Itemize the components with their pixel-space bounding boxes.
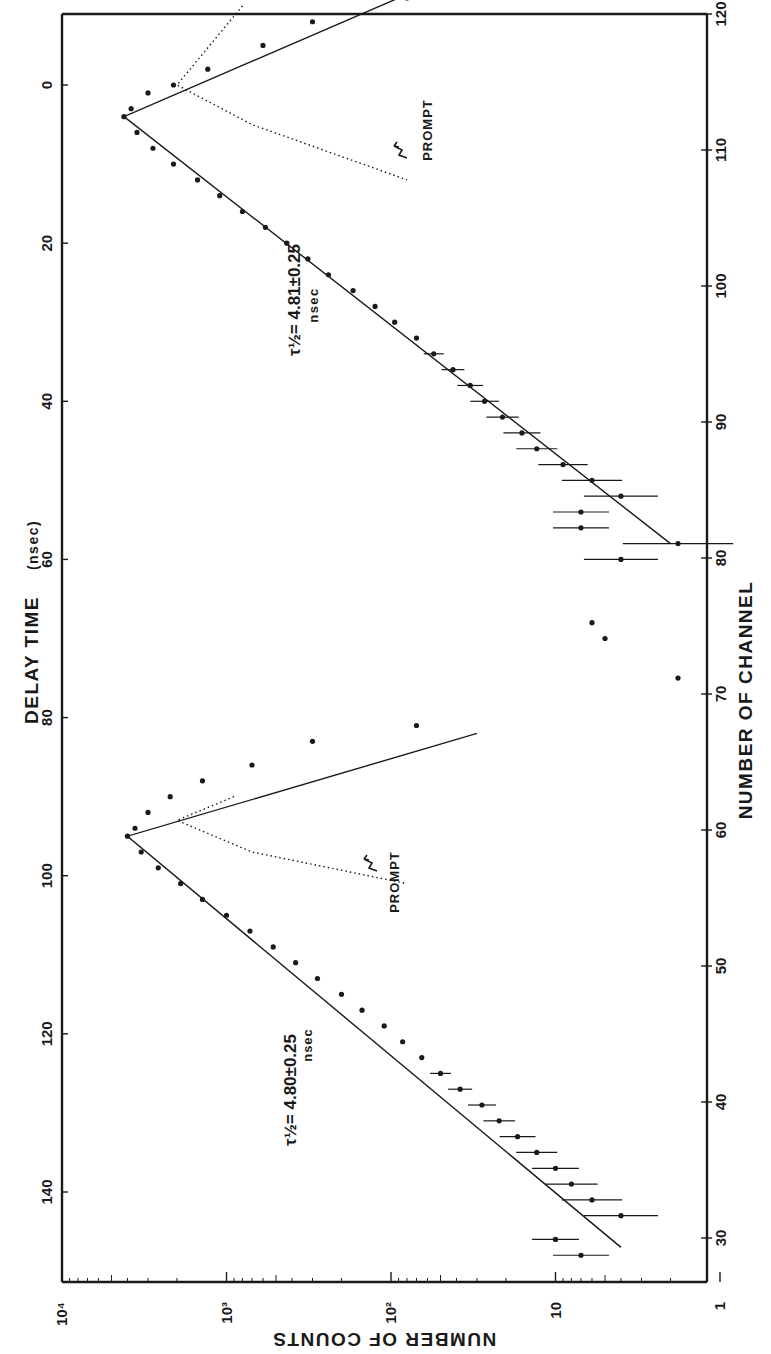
plot-frame [62,14,707,1282]
channel-tick-label: 50 [712,958,729,975]
counts-axis-ticks: 10⁴10³10²101 [53,1272,728,1326]
delay-tick-label: 20 [38,235,55,252]
channel-tick-label: 70 [712,686,729,703]
channel-tick-label: 80 [712,550,729,567]
prompt-curve [177,797,407,884]
count-tick-label: 10⁴ [53,1302,70,1326]
data-point [326,272,331,277]
data-point [145,90,150,95]
data-point [497,1118,502,1123]
data-point [519,430,524,435]
data-point [293,960,298,965]
data-point [414,723,419,728]
data-point [310,19,315,24]
data-point [578,509,583,514]
channel-tick-label: 40 [712,1094,729,1111]
data-point [305,256,310,261]
data-point [392,320,397,325]
data-point [139,849,144,854]
data-point [500,415,505,420]
data-point [479,1102,484,1107]
fit-line [127,733,621,1247]
data-point [315,976,320,981]
data-point [450,367,455,372]
data-point [569,1181,574,1186]
delay-axis-unit: (nsec) [25,520,41,570]
data-point [589,478,594,483]
data-point [247,928,252,933]
data-point [675,675,680,680]
data-point [534,446,539,451]
data-point [134,130,139,135]
channel-tick-label: 110 [712,138,729,162]
delay-axis-title: DELAY TIME [21,596,42,724]
channel-tick-label: 30 [712,1230,729,1247]
data-point [553,1237,558,1242]
data-point [271,944,276,949]
data-point [121,114,126,119]
data-point [224,913,229,918]
data-point [400,1039,405,1044]
channel-axis-ticks: 12011010090807060504030 [701,1,729,1246]
delay-tick-label: 0 [38,81,55,89]
delay-tick-label: 40 [38,393,55,410]
delay-tick-label: 140 [38,1179,55,1204]
data-point [205,67,210,72]
data-point [382,1023,387,1028]
data-point [618,557,623,562]
prompt-curve [177,6,407,180]
data-point [419,1055,424,1060]
fit-line [124,0,671,544]
data-point [404,0,409,1]
data-point [195,177,200,182]
data-point [168,794,173,799]
data-point [171,161,176,166]
prompt-label-1: PROMPT [420,99,435,161]
delay-tick-label: 120 [38,1021,55,1046]
data-point [578,1253,583,1258]
data-point [217,193,222,198]
half-life-unit-1: nsec [306,287,321,323]
data-point [156,865,161,870]
data-point [553,1166,558,1171]
channel-tick-label: 120 [712,1,729,26]
lifetime-decay-chart: 020406080100120140 120110100908070605040… [0,0,771,1354]
data-point [458,1087,463,1092]
data-point [431,351,436,356]
data-point [482,399,487,404]
channel-tick-label: 90 [712,414,729,431]
data-point [675,541,680,546]
data-point [578,525,583,530]
data-point [438,1071,443,1076]
data-point [515,1134,520,1139]
half-life-label-1: τ½= 4.81±0.25 [285,244,304,356]
data-point [372,304,377,309]
data-point [589,1197,594,1202]
channel-tick-label: 60 [712,822,729,839]
data-point [534,1150,539,1155]
data-point [240,209,245,214]
count-tick-label: 1 [711,1302,728,1310]
data-point [618,1213,623,1218]
prompt-arrow-icon-1 [394,142,407,158]
data-point [200,897,205,902]
prompt-label-2: PROMPT [387,851,402,913]
count-tick-label: 10 [547,1302,564,1319]
data-point [263,225,268,230]
channel-axis-title: NUMBER OF CHANNEL [735,581,756,820]
data-point [145,810,150,815]
data-point [132,826,137,831]
delay-time-axis-ticks: 020406080100120140 [38,81,68,1205]
data-point [468,383,473,388]
data-point [125,834,130,839]
prompt-arrow-icon-2 [364,855,377,871]
data-point [602,636,607,641]
data-point [350,288,355,293]
count-tick-label: 10² [382,1302,399,1324]
data-points [121,0,733,1258]
chart-canvas: 020406080100120140 120110100908070605040… [0,0,771,1354]
prompt-curves [177,6,407,884]
data-point [200,778,205,783]
data-point [150,146,155,151]
channel-tick-label: 100 [712,273,729,298]
